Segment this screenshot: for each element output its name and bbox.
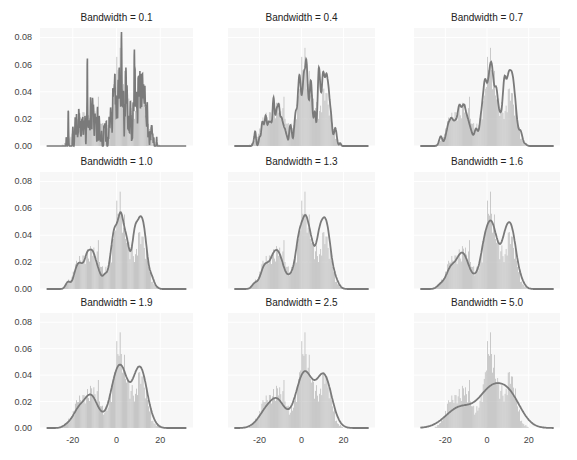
histogram-bar bbox=[276, 386, 277, 428]
histogram-bar bbox=[501, 391, 502, 428]
histogram-bar bbox=[302, 57, 303, 146]
histogram-bar bbox=[332, 267, 333, 289]
histogram-bar bbox=[308, 228, 309, 289]
histogram-bar bbox=[477, 406, 478, 428]
y-tick-label: 0.00 bbox=[14, 423, 32, 433]
histogram-bar bbox=[331, 261, 332, 289]
histogram-bar bbox=[309, 355, 310, 428]
histogram-bar bbox=[493, 368, 494, 428]
histogram-bar bbox=[502, 385, 503, 428]
histogram-bar bbox=[495, 379, 496, 428]
histogram-bar bbox=[282, 402, 283, 428]
histogram-bar bbox=[325, 244, 326, 289]
histogram-bar bbox=[445, 411, 446, 428]
histogram-bar bbox=[337, 423, 338, 428]
histogram-bar bbox=[125, 379, 126, 428]
histogram-bar bbox=[496, 383, 497, 428]
histogram-bar bbox=[513, 105, 514, 146]
histogram-bar bbox=[503, 256, 504, 289]
histogram-bar bbox=[142, 376, 143, 428]
histogram-bar bbox=[471, 124, 472, 146]
histogram-bar bbox=[282, 120, 283, 146]
histogram-bar bbox=[459, 389, 460, 428]
subplot-panel: Bandwidth = 2.5-20020 bbox=[228, 297, 375, 445]
histogram-bar bbox=[317, 396, 318, 428]
histogram-bar bbox=[525, 426, 526, 428]
y-tick-label: 0.04 bbox=[14, 370, 32, 380]
histogram-bar bbox=[269, 112, 270, 146]
histogram-bar bbox=[500, 259, 501, 289]
histogram-bar bbox=[265, 263, 266, 289]
histogram-bar bbox=[526, 425, 527, 428]
histogram-bar bbox=[505, 111, 506, 146]
histogram-bar bbox=[135, 254, 136, 289]
histogram-bar bbox=[472, 406, 473, 428]
histogram-bar bbox=[476, 413, 477, 428]
histogram-bar bbox=[320, 106, 321, 146]
histogram-bar bbox=[103, 275, 104, 289]
histogram-bar bbox=[455, 395, 456, 428]
histogram-bar bbox=[452, 256, 453, 289]
histogram-bar bbox=[131, 391, 132, 428]
histogram-bar bbox=[299, 232, 300, 289]
histogram-bar bbox=[333, 411, 334, 428]
histogram-bar bbox=[463, 105, 464, 146]
histogram-bar bbox=[282, 263, 283, 289]
histogram-bar bbox=[109, 401, 110, 428]
histogram-bar bbox=[463, 388, 464, 428]
histogram-bar bbox=[327, 377, 328, 428]
histogram-bar bbox=[507, 112, 508, 146]
histogram-bar bbox=[451, 119, 452, 146]
histogram-bar bbox=[520, 282, 521, 289]
histogram-bar bbox=[89, 262, 90, 289]
histogram-bar bbox=[129, 382, 130, 428]
histogram-bar bbox=[466, 394, 467, 428]
histogram-bar bbox=[504, 262, 505, 289]
histogram-bar bbox=[254, 423, 255, 428]
histogram-bar bbox=[501, 251, 502, 289]
histogram-bar bbox=[480, 261, 481, 289]
histogram-bar bbox=[276, 246, 277, 289]
histogram-bar bbox=[338, 424, 339, 428]
histogram-bar bbox=[83, 255, 84, 289]
histogram-bar bbox=[126, 383, 127, 428]
histogram-bar bbox=[520, 139, 521, 146]
histogram-bar bbox=[147, 261, 148, 289]
histogram-bar bbox=[134, 402, 135, 428]
histogram-bar bbox=[496, 99, 497, 146]
histogram-bar bbox=[312, 378, 313, 428]
histogram-bar bbox=[324, 232, 325, 289]
histogram-bar bbox=[437, 425, 438, 428]
histogram-bar bbox=[111, 263, 112, 289]
histogram-bar bbox=[87, 249, 88, 289]
histogram-bar bbox=[125, 239, 126, 289]
histogram-bar bbox=[151, 421, 152, 428]
histogram-bar bbox=[273, 389, 274, 428]
histogram-bar bbox=[283, 251, 284, 289]
histogram-bar bbox=[104, 273, 105, 289]
histogram-bar bbox=[442, 420, 443, 428]
histogram-bar bbox=[102, 406, 103, 428]
histogram-bar bbox=[329, 259, 330, 289]
histogram-bar bbox=[472, 267, 473, 289]
histogram-bar bbox=[261, 276, 262, 289]
histogram-bar bbox=[145, 259, 146, 289]
histogram-bar bbox=[473, 406, 474, 428]
y-tick-label: 0.08 bbox=[14, 176, 32, 186]
histogram-bar bbox=[75, 404, 76, 428]
histogram-bar bbox=[314, 399, 315, 428]
histogram-bar bbox=[107, 411, 108, 428]
histogram-bar bbox=[74, 415, 75, 428]
histogram-bar bbox=[321, 395, 322, 428]
x-tick-label: 20 bbox=[155, 435, 165, 445]
histogram-bar bbox=[527, 427, 528, 428]
histogram-bar bbox=[96, 263, 97, 289]
histogram-bar bbox=[509, 372, 510, 428]
histogram-bar bbox=[504, 402, 505, 428]
histogram-bar bbox=[480, 401, 481, 428]
y-tick-label: 0.08 bbox=[14, 317, 32, 327]
histogram-bar bbox=[321, 256, 322, 289]
histogram-bar bbox=[460, 115, 461, 146]
histogram-bar bbox=[133, 256, 134, 289]
histogram-bar bbox=[138, 233, 139, 289]
